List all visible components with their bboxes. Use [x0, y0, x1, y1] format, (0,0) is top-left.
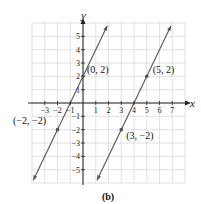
- x-tick-label: 3: [119, 106, 123, 115]
- y-tick-label: −3: [71, 139, 80, 148]
- y-tick-label: −2: [71, 126, 80, 135]
- point-label: (−2, −2): [13, 115, 46, 127]
- y-tick-label: −1: [71, 112, 80, 121]
- y-tick-label: 5: [76, 32, 80, 41]
- point-label: (5, 2): [153, 64, 175, 76]
- data-point: [56, 128, 60, 132]
- x-tick-label: 6: [158, 106, 162, 115]
- y-tick-label: 3: [76, 59, 80, 68]
- data-point: [81, 75, 85, 79]
- x-tick-label: 4: [132, 106, 136, 115]
- y-tick-label: −5: [71, 166, 80, 175]
- line-arrow-icon: [103, 26, 107, 31]
- y-tick-label: 2: [76, 72, 80, 81]
- x-axis-label: x: [189, 97, 195, 109]
- x-tick-label: 2: [107, 106, 111, 115]
- x-tick-label: −2: [53, 106, 62, 115]
- x-tick-label: 7: [170, 106, 174, 115]
- line-arrow-icon: [33, 175, 37, 180]
- y-tick-label: 1: [76, 86, 80, 95]
- point-label: (0, 2): [87, 64, 109, 76]
- x-tick-label: −3: [40, 106, 49, 115]
- point-label: (3, −2): [126, 130, 153, 142]
- coordinate-plane: −3−2−1123456754321−1−2−3−4−5 x y (−2, −2…: [0, 0, 201, 204]
- figure-caption: (b): [102, 191, 114, 203]
- y-axis-label: y: [80, 9, 86, 21]
- x-tick-label: 1: [94, 106, 98, 115]
- line-arrow-icon: [97, 175, 101, 180]
- y-tick-label: −4: [71, 152, 80, 161]
- data-point: [119, 128, 123, 132]
- data-point: [145, 75, 149, 79]
- y-tick-label: 4: [76, 46, 80, 55]
- x-tick-label: 5: [145, 106, 149, 115]
- line-arrow-icon: [167, 26, 171, 31]
